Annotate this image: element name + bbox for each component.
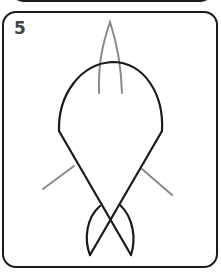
right-fin bbox=[142, 169, 172, 195]
body-right-side bbox=[90, 131, 162, 255]
body-outline bbox=[59, 62, 162, 131]
body-left-side bbox=[59, 131, 131, 255]
fish-drawing bbox=[0, 0, 221, 273]
top-fin bbox=[99, 22, 122, 93]
left-fin bbox=[43, 166, 74, 189]
